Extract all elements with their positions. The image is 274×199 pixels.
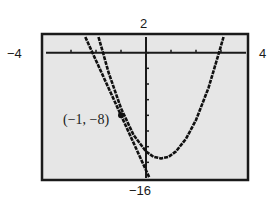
tangent-point-marker	[118, 112, 124, 118]
point-label: (−1, −8)	[63, 112, 109, 128]
graph-plot: (−1, −8)	[0, 0, 274, 199]
